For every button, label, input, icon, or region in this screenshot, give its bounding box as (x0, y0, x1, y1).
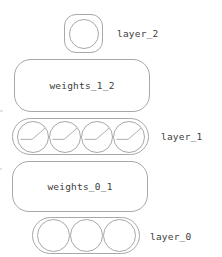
weights-label-weights_1_2: weights_1_2 (49, 81, 114, 91)
neuron-row-layer_1 (17, 121, 145, 153)
layer-container-layer_2[interactable] (64, 14, 103, 53)
relu-activation-icon (50, 122, 80, 152)
neuron-layer_0-2[interactable] (103, 219, 136, 252)
layer-container-layer_1[interactable] (12, 118, 149, 155)
left-edge-artifact (0, 110, 3, 112)
neuron-layer_1-2[interactable] (81, 121, 113, 153)
layer-label-layer_2: layer_2 (117, 29, 158, 39)
layer-container-layer_0[interactable] (32, 217, 140, 254)
neuron-layer_1-0[interactable] (17, 121, 49, 153)
neuron-layer_1-1[interactable] (49, 121, 81, 153)
neuron-layer_0-1[interactable] (70, 219, 103, 252)
left-edge-artifact-lower (0, 168, 2, 170)
weights-box-weights_0_1[interactable]: weights_0_1 (12, 161, 148, 212)
neuron-layer_0-0[interactable] (37, 219, 70, 252)
neuron-row-layer_2 (69, 19, 99, 49)
layer-label-layer_0: layer_0 (150, 232, 191, 242)
relu-activation-icon (18, 122, 48, 152)
neuron-layer_2-0[interactable] (69, 19, 99, 49)
weights-box-weights_1_2[interactable]: weights_1_2 (14, 59, 150, 112)
relu-activation-icon (82, 122, 112, 152)
weights-label-weights_0_1: weights_0_1 (47, 182, 112, 192)
relu-activation-icon (114, 122, 144, 152)
layer-label-layer_1: layer_1 (161, 132, 202, 142)
neuron-layer_1-3[interactable] (113, 121, 145, 153)
neuron-row-layer_0 (37, 219, 136, 252)
diagram-canvas: layer_2 weights_1_2 (0, 0, 222, 257)
